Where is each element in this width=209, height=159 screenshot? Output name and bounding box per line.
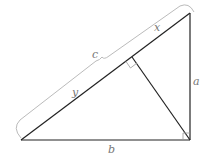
altitude-line xyxy=(132,57,190,140)
label-a: a xyxy=(193,75,200,88)
label-x: x xyxy=(154,21,161,34)
label-y: y xyxy=(71,86,79,99)
hypotenuse-brace xyxy=(16,5,194,138)
label-b: b xyxy=(108,143,115,156)
right-triangle-diagram: c x y a b xyxy=(0,0,209,159)
label-c: c xyxy=(92,48,98,61)
hypotenuse-line xyxy=(21,13,190,140)
